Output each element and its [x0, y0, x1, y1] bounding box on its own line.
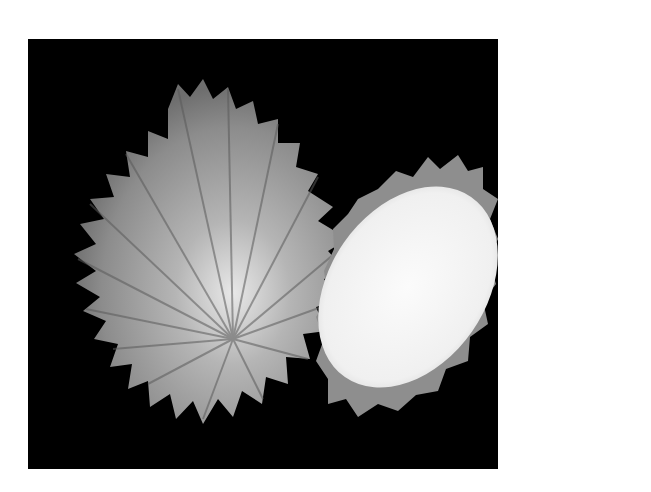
ribbed-shell-valve: [74, 79, 348, 424]
shell-illustration: [28, 39, 498, 469]
shell-photograph: [28, 39, 498, 469]
